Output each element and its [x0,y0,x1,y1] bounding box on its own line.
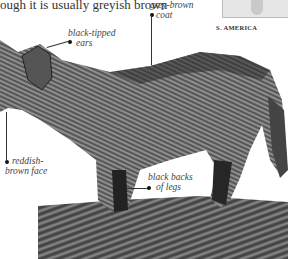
annotation-face: reddish- brown face [10,156,47,176]
annotation-legs-line1: black backs [148,172,193,182]
annotation-legs: black backs of legs [148,172,193,192]
annotation-ears-line1: black-tipped [68,28,115,38]
annotation-legs-leader [126,188,148,189]
annotation-coat-leader [151,15,152,65]
annotation-face-line2: brown face [5,166,47,176]
map-caption: S. AMERICA [216,24,257,31]
annotation-coat-line2: coat [150,10,194,20]
fox-photo [0,0,288,259]
intro-text: ough it is usually greyish brown [0,0,167,13]
map-inset [222,0,288,18]
annotation-face-leader [6,112,7,160]
annotation-legs-dot [147,186,151,190]
annotation-face-dot [5,160,9,164]
annotation-coat: grey-brown coat [150,0,194,20]
annotation-ears-dot [68,40,72,44]
map-landmass [251,0,263,15]
annotation-legs-line2: of legs [148,182,193,192]
annotation-ears: black-tipped ears [68,28,115,48]
annotation-ears-line2: ears [68,38,115,48]
annotation-coat-line1: grey-brown [150,0,194,10]
annotation-face-line1: reddish- [10,156,47,166]
